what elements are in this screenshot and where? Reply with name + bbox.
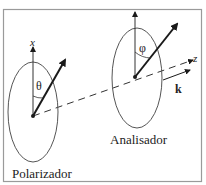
- k-vector-label: k: [175, 82, 182, 96]
- z-axis-label: z: [192, 52, 198, 64]
- analyzer-label: Analisador: [110, 132, 168, 147]
- k-vector-arrow: [163, 70, 190, 80]
- polarizer: x θ Polarizador: [8, 36, 73, 181]
- polarizer-center-dot: [31, 114, 35, 118]
- theta-arc: [33, 96, 43, 98]
- analyzer-center-dot: [133, 75, 137, 79]
- theta-label: θ: [36, 79, 42, 93]
- polarizer-label: Polarizador: [12, 166, 73, 181]
- analyzer: φ Analisador: [110, 12, 177, 147]
- z-axis-dashed-line: [33, 60, 193, 116]
- polarizer-analyzer-diagram: z k x θ Polarizador φ Analisador: [0, 0, 206, 185]
- phi-label: φ: [139, 41, 146, 55]
- analyzer-ellipse: [112, 28, 162, 128]
- x-axis-label: x: [29, 36, 35, 48]
